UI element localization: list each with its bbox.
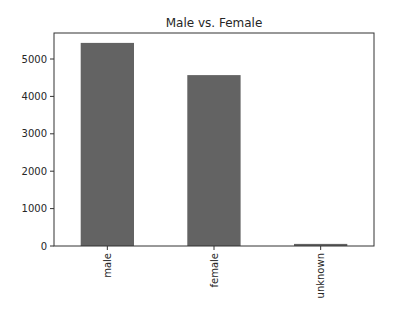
bars-group: [81, 43, 348, 246]
bar-female: [187, 75, 240, 246]
y-tick-label: 5000: [22, 54, 47, 65]
chart-title: Male vs. Female: [166, 16, 263, 30]
x-tick-label: female: [209, 253, 220, 287]
x-tick-label: unknown: [315, 253, 326, 298]
x-tick-label: male: [102, 253, 113, 278]
bar-male: [81, 43, 134, 246]
y-tick-label: 3000: [22, 128, 47, 139]
y-tick-label: 1000: [22, 203, 47, 214]
y-tick-label: 4000: [22, 91, 47, 102]
x-axis: malefemaleunknown: [102, 246, 326, 298]
y-axis: 010002000300040005000: [22, 54, 54, 252]
y-tick-label: 2000: [22, 166, 47, 177]
y-tick-label: 0: [41, 241, 47, 252]
bar-chart: Male vs. Female 010002000300040005000 ma…: [0, 0, 393, 315]
